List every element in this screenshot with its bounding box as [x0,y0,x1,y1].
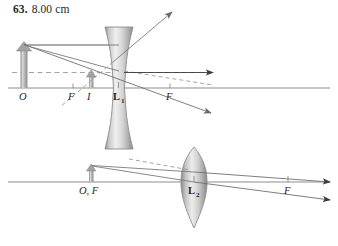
converging-lens-panel: O, F F L 2 [8,147,330,228]
object-point-label: O [19,91,27,102]
svg-text:1: 1 [121,97,125,105]
svg-text:L: L [113,91,120,102]
object-arrow [17,42,32,89]
object-focal-point-label: O, F [79,185,99,196]
image-focal-point-label: F [283,185,291,196]
figure-page: 63.8.00 cm [0,0,338,246]
diverging-lens-panel: O F I F L 1 [8,12,330,149]
virtual-forward-dashed-ray [124,71,213,85]
svg-text:2: 2 [196,191,200,199]
svg-text:L: L [188,185,195,196]
ray-diagram-figure: O F I F L 1 [0,0,338,246]
image-arrow [87,70,96,88]
upper-outgoing-ray [194,172,330,182]
image-point-label: I [86,91,91,102]
center-outgoing-ray [194,182,330,200]
secondary-incident-ray [24,45,119,71]
near-focal-point-label: F [67,91,75,102]
far-focal-point-label: F [165,91,173,102]
